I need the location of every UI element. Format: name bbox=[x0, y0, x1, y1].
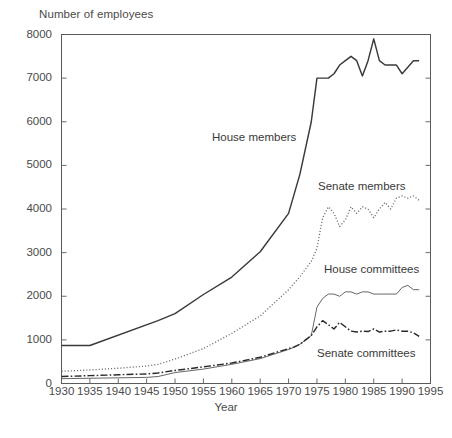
y-axis-title: Number of employees bbox=[39, 8, 153, 20]
annotation-house-members: House members bbox=[212, 131, 296, 143]
y-axis-tick-label: 7000 bbox=[6, 72, 52, 83]
plot-area bbox=[0, 0, 452, 438]
series-line-senate-members bbox=[62, 196, 420, 371]
y-axis-tick-label: 2000 bbox=[6, 290, 52, 301]
y-axis-tick-label: 5000 bbox=[6, 159, 52, 170]
annotation-house-committees: House committees bbox=[324, 263, 419, 275]
y-axis-tick-label: 3000 bbox=[6, 247, 52, 258]
y-axis-tick-label: 4000 bbox=[6, 203, 52, 214]
x-axis-tick-label: 1995 bbox=[411, 386, 451, 397]
y-axis-tick-label: 1000 bbox=[6, 334, 52, 345]
series-line-house-members bbox=[62, 39, 420, 346]
annotation-senate-committees: Senate committees bbox=[317, 347, 415, 359]
y-axis-tick-label: 6000 bbox=[6, 116, 52, 127]
x-axis-title: Year bbox=[0, 401, 452, 413]
annotation-senate-members: Senate members bbox=[318, 180, 406, 192]
chart-figure: Number of employees Year 010002000300040… bbox=[0, 0, 452, 438]
plot-frame bbox=[62, 35, 431, 384]
y-axis-tick-label: 8000 bbox=[6, 29, 52, 40]
